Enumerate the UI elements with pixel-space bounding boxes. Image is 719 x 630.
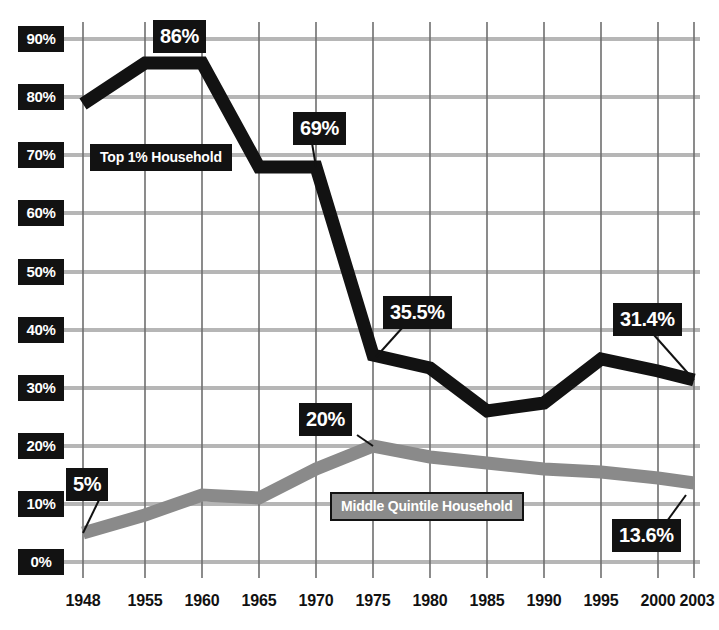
y-axis-tick-30: 30% (18, 375, 64, 401)
callout-69-percent: 69% (293, 112, 346, 145)
x-axis-tick-2000: 2000 (641, 592, 676, 610)
x-axis-tick-1960: 1960 (185, 592, 220, 610)
y-axis-tick-20: 20% (18, 433, 64, 459)
y-axis-tick-40: 40% (18, 317, 64, 343)
y-axis-tick-10: 10% (18, 491, 64, 517)
callout-31-4-percent: 31.4% (613, 303, 682, 336)
y-axis-tick-0: 0% (18, 549, 64, 575)
y-axis-tick-50: 50% (18, 259, 64, 285)
callout-35-5-percent: 35.5% (383, 296, 452, 329)
chart-container: 90% 80% 70% 60% 50% 40% 30% 20% 10% 0% 1… (0, 0, 719, 630)
series-label-top-1-percent-household: Top 1% Household (90, 144, 232, 171)
x-axis-tick-1970: 1970 (299, 592, 334, 610)
x-axis-tick-1955: 1955 (128, 592, 163, 610)
x-axis-tick-1985: 1985 (470, 592, 505, 610)
x-axis-tick-1948: 1948 (66, 592, 101, 610)
callout-5-percent: 5% (66, 468, 108, 501)
y-axis-tick-90: 90% (18, 26, 64, 52)
x-axis-tick-2003: 2003 (680, 592, 715, 610)
series-line-top-1-percent-household (83, 63, 694, 411)
x-axis-tick-1980: 1980 (413, 592, 448, 610)
x-axis-tick-1965: 1965 (242, 592, 277, 610)
callout-20-percent: 20% (299, 403, 352, 436)
series-label-middle-quintile-household: Middle Quintile Household (330, 492, 524, 521)
x-axis-tick-1990: 1990 (527, 592, 562, 610)
y-axis-tick-70: 70% (18, 142, 64, 168)
x-axis-tick-1975: 1975 (356, 592, 391, 610)
callout-13-6-percent: 13.6% (612, 519, 681, 552)
x-axis-tick-1995: 1995 (584, 592, 619, 610)
callout-86-percent: 86% (153, 20, 206, 53)
y-axis-tick-80: 80% (18, 84, 64, 110)
y-axis-tick-60: 60% (18, 200, 64, 226)
